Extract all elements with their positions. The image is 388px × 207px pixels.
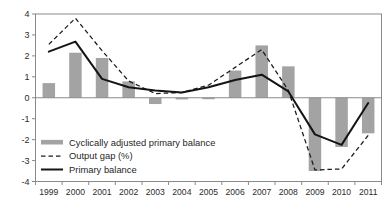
y-tick-label: -2 <box>21 135 29 145</box>
bar-2000 <box>69 53 82 98</box>
x-tick-label-2011: 2011 <box>359 187 378 197</box>
bar-2003 <box>149 98 162 104</box>
y-tick-label: 0 <box>24 93 29 103</box>
x-tick-label-2001: 2001 <box>92 187 111 197</box>
legend-label: Cyclically adjusted primary balance <box>69 137 215 148</box>
y-tick-label: 2 <box>24 51 29 61</box>
x-tick-label-2007: 2007 <box>252 187 271 197</box>
x-tick-label-2008: 2008 <box>279 187 298 197</box>
y-tick-label: 3 <box>24 30 29 40</box>
chart-background <box>0 0 388 207</box>
legend-bar-swatch-icon <box>41 140 63 145</box>
x-tick-label-2003: 2003 <box>146 187 165 197</box>
x-tick-label-2000: 2000 <box>66 187 85 197</box>
x-tick-label-2004: 2004 <box>172 187 191 197</box>
x-tick-label-2009: 2009 <box>305 187 324 197</box>
chart-container: 43210-1-2-3-4 19992000200120022003200420… <box>0 0 388 207</box>
x-tick-label-1999: 1999 <box>39 187 58 197</box>
bar-2002 <box>122 81 134 97</box>
legend-label: Output gap (%) <box>69 150 133 161</box>
y-tick-label: -4 <box>21 177 29 187</box>
legend-label: Primary balance <box>69 164 137 175</box>
y-tick-label: 1 <box>24 72 29 82</box>
x-tick-label-2002: 2002 <box>119 187 138 197</box>
x-tick-label-2005: 2005 <box>199 187 218 197</box>
y-tick-label: -3 <box>21 156 29 166</box>
x-tick-label-2006: 2006 <box>226 187 245 197</box>
x-tick-label-2010: 2010 <box>332 187 351 197</box>
y-tick-label: 4 <box>24 9 29 19</box>
bar-2006 <box>229 71 242 98</box>
y-tick-label: -1 <box>21 114 29 124</box>
bar-2007 <box>255 45 268 97</box>
economic-indicators-chart: 43210-1-2-3-4 19992000200120022003200420… <box>0 0 388 207</box>
bar-1999 <box>43 83 56 98</box>
